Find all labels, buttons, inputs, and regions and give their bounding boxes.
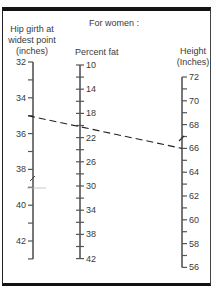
height-tick-label: 58 [189, 239, 199, 249]
height-tick-label: 64 [189, 167, 199, 177]
height-tick-label: 68 [189, 120, 199, 130]
hip-tick-label: 36 [16, 129, 26, 139]
fat-tick-label: 42 [86, 254, 96, 264]
percent-fat-scale: 101418222630343842 [76, 60, 96, 264]
hip-girth-scale: 323436384042 [16, 57, 33, 259]
height-tick-label: 62 [189, 191, 199, 201]
fat-tick-label: 22 [86, 133, 96, 143]
fat-tick-label: 14 [86, 84, 96, 94]
height-tick-label: 66 [189, 143, 199, 153]
fat-tick-label: 34 [86, 205, 96, 215]
nomogram-diagram: 323436384042 101418222630343842 72706866… [0, 0, 216, 290]
height-tick-label: 60 [189, 215, 199, 225]
hip-tick-label: 42 [16, 236, 26, 246]
fat-tick-label: 10 [86, 60, 96, 70]
fat-tick-label: 18 [86, 108, 96, 118]
fat-tick-label: 30 [86, 181, 96, 191]
reading-line [28, 116, 182, 149]
hip-tick-label: 34 [16, 93, 26, 103]
height-tick-label: 70 [189, 96, 199, 106]
height-tick-label: 56 [189, 262, 199, 272]
dashed-reading-line [28, 116, 182, 149]
hip-tick-label: 40 [16, 200, 26, 210]
height-scale: 727068666462605856 [182, 72, 199, 272]
hip-tick-label: 32 [16, 57, 26, 67]
fat-tick-label: 26 [86, 157, 96, 167]
fat-tick-label: 38 [86, 229, 96, 239]
height-tick-label: 72 [189, 72, 199, 82]
hip-tick-label: 38 [16, 164, 26, 174]
